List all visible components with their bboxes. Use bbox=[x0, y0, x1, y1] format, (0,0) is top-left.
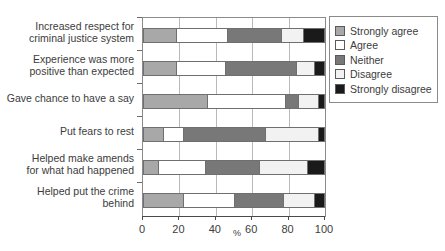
bar-segment bbox=[283, 193, 314, 208]
bar-segment bbox=[163, 127, 183, 142]
bar-segment bbox=[285, 94, 298, 109]
x-tick-label: 80 bbox=[281, 223, 293, 235]
bar-segment bbox=[314, 193, 325, 208]
x-axis-title: % bbox=[233, 228, 241, 238]
bar-segment bbox=[143, 28, 176, 43]
bar-segment bbox=[143, 94, 207, 109]
gridline bbox=[216, 18, 217, 216]
category-axis-labels: Increased respect for criminal justice s… bbox=[0, 0, 138, 215]
bar-segment bbox=[143, 160, 158, 175]
category-label: Gave chance to have a say bbox=[7, 93, 134, 105]
bar-segment bbox=[314, 61, 325, 76]
bar-segment bbox=[225, 61, 296, 76]
legend-item[interactable]: Neither bbox=[335, 54, 433, 66]
bar-segment bbox=[281, 28, 303, 43]
x-tick-label: 100 bbox=[315, 223, 333, 235]
bar-segment bbox=[234, 193, 283, 208]
chart-legend: Strongly agreeAgreeNeitherDisagreeStrong… bbox=[329, 16, 438, 103]
bar-stack bbox=[143, 193, 325, 208]
bar-segment bbox=[227, 28, 282, 43]
legend-label: Agree bbox=[350, 39, 378, 51]
bar-stack bbox=[143, 160, 325, 175]
gridline bbox=[252, 18, 253, 216]
category-label: Experience was more positive than expect… bbox=[30, 54, 135, 77]
legend-item[interactable]: Disagree bbox=[335, 68, 433, 80]
bar-segment bbox=[143, 61, 176, 76]
legend-swatch-icon bbox=[335, 55, 345, 65]
bar-stack bbox=[143, 28, 325, 43]
legend-item[interactable]: Strongly agree bbox=[335, 25, 433, 37]
legend-label: Strongly agree bbox=[350, 25, 418, 37]
legend-label: Strongly disagree bbox=[350, 83, 432, 95]
bar-segment bbox=[265, 127, 318, 142]
bar-segment bbox=[318, 127, 325, 142]
bar-segment bbox=[259, 160, 306, 175]
bar-segment bbox=[207, 94, 285, 109]
y-axis-tick bbox=[137, 116, 142, 117]
category-label: Helped put the crime behind bbox=[37, 186, 134, 209]
bar-stack bbox=[143, 94, 325, 109]
bar-segment bbox=[205, 160, 260, 175]
bar-segment bbox=[303, 28, 325, 43]
x-tick-label: 60 bbox=[245, 223, 257, 235]
x-tick-label: 0 bbox=[139, 223, 145, 235]
stacked-bar-chart: Increased respect for criminal justice s… bbox=[0, 0, 445, 251]
legend-swatch-icon bbox=[335, 40, 345, 50]
x-axis-tick bbox=[324, 216, 325, 220]
x-axis-tick bbox=[178, 216, 179, 220]
bar-segment bbox=[318, 94, 325, 109]
bar-segment bbox=[143, 193, 183, 208]
bar-segment bbox=[296, 61, 314, 76]
bar-segment bbox=[176, 28, 227, 43]
category-label: Increased respect for criminal justice s… bbox=[29, 21, 134, 44]
x-axis-tick bbox=[251, 216, 252, 220]
gridline bbox=[289, 18, 290, 216]
bar-segment bbox=[307, 160, 325, 175]
y-axis-tick bbox=[137, 149, 142, 150]
x-axis-tick bbox=[288, 216, 289, 220]
plot-area bbox=[142, 17, 326, 217]
y-axis-tick bbox=[137, 50, 142, 51]
category-label: Put fears to rest bbox=[60, 126, 134, 138]
x-axis-tick bbox=[215, 216, 216, 220]
category-label: Helped make amends for what had happened bbox=[27, 153, 134, 176]
x-axis-line bbox=[142, 216, 325, 217]
bar-segment bbox=[143, 127, 163, 142]
x-tick-label: 20 bbox=[172, 223, 184, 235]
legend-item[interactable]: Agree bbox=[335, 39, 433, 51]
legend-swatch-icon bbox=[335, 26, 345, 36]
bar-segment bbox=[183, 127, 265, 142]
legend-item[interactable]: Strongly disagree bbox=[335, 83, 433, 95]
gridline bbox=[179, 18, 180, 216]
legend-swatch-icon bbox=[335, 69, 345, 79]
y-axis-tick bbox=[137, 83, 142, 84]
y-axis-tick bbox=[137, 17, 142, 18]
bar-segment bbox=[298, 94, 318, 109]
bar-segment bbox=[183, 193, 234, 208]
x-tick-label: 40 bbox=[209, 223, 221, 235]
y-axis-tick bbox=[137, 182, 142, 183]
legend-label: Neither bbox=[350, 54, 384, 66]
legend-label: Disagree bbox=[350, 68, 392, 80]
x-axis-tick bbox=[142, 216, 143, 220]
legend-swatch-icon bbox=[335, 84, 345, 94]
bar-stack bbox=[143, 127, 325, 142]
bar-segment bbox=[176, 61, 225, 76]
bar-segment bbox=[158, 160, 205, 175]
bar-stack bbox=[143, 61, 325, 76]
